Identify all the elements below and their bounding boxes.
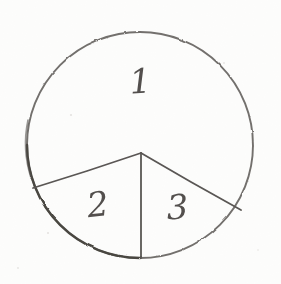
- paper-speckle: [257, 249, 259, 251]
- figure-root: 1 2 3: [0, 0, 281, 284]
- sector-label-3: 3: [166, 186, 190, 227]
- paper-speckle: [70, 114, 72, 116]
- sector-label-2: 2: [84, 183, 111, 225]
- paper-speckle: [17, 267, 19, 269]
- paper-speckle: [47, 232, 49, 234]
- circle-sectors-diagram: 1 2 3: [0, 0, 281, 284]
- paper-speckle: [223, 62, 225, 64]
- sector-label-1: 1: [128, 60, 152, 101]
